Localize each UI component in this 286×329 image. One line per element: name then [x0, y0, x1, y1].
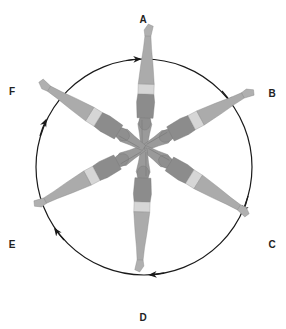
body-position-d	[131, 148, 153, 273]
body-position-b	[140, 82, 258, 156]
arrow-icon	[40, 120, 46, 136]
arrow-icon	[55, 229, 64, 240]
rotation-diagram	[0, 0, 286, 329]
label-a: A	[139, 14, 146, 25]
arrow-icon	[126, 59, 140, 60]
body-position-e	[30, 140, 148, 214]
bodies	[30, 24, 257, 272]
label-e: E	[9, 239, 16, 250]
body-position-f	[34, 75, 149, 156]
label-b: B	[268, 88, 275, 99]
body-position-a	[135, 24, 157, 149]
label-f: F	[9, 86, 15, 97]
label-d: D	[139, 312, 146, 323]
label-c: C	[268, 239, 275, 250]
body-position-c	[139, 140, 254, 221]
arrow-icon	[150, 273, 164, 275]
